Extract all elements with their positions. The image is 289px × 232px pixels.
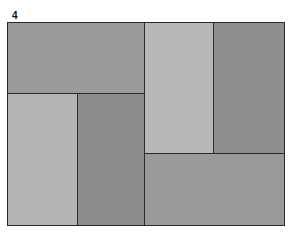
- rect-top-right-dark: [213, 22, 285, 154]
- rectangle-tiling-frame: [7, 22, 284, 225]
- rect-middle-left-light: [7, 93, 78, 226]
- rect-top-left: [7, 22, 145, 94]
- rect-top-center-light: [144, 22, 214, 154]
- figure-label: 4: [12, 11, 18, 21]
- rect-bottom-right: [144, 153, 285, 226]
- rect-middle-center-dark: [77, 93, 145, 226]
